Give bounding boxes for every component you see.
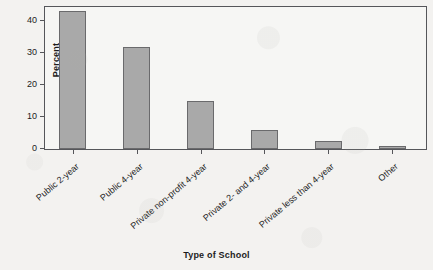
x-tick-mark xyxy=(264,149,265,154)
x-tick-mark xyxy=(201,149,202,154)
y-tick-label: 30 xyxy=(27,47,37,58)
x-tick-mark xyxy=(137,149,138,154)
y-tick-mark xyxy=(40,116,45,117)
bar xyxy=(59,11,86,149)
y-tick-mark xyxy=(40,52,45,53)
y-tick-label: 40 xyxy=(27,15,37,26)
plot-area: Percent 010203040 xyxy=(44,6,427,150)
bar xyxy=(187,101,214,149)
bar-chart-figure: Percent 010203040 Public 2-yearPublic 4-… xyxy=(0,0,433,270)
y-tick-mark xyxy=(40,84,45,85)
x-tick-mark xyxy=(73,149,74,154)
bar xyxy=(315,141,342,149)
x-tick-mark xyxy=(328,149,329,154)
y-tick-mark xyxy=(40,148,45,149)
x-tick-mark xyxy=(392,149,393,154)
y-tick-label: 20 xyxy=(27,79,37,90)
bar xyxy=(251,130,278,149)
y-tick-label: 10 xyxy=(27,111,37,122)
y-tick-label: 0 xyxy=(32,143,37,154)
y-tick-mark xyxy=(40,20,45,21)
bar xyxy=(123,47,150,149)
